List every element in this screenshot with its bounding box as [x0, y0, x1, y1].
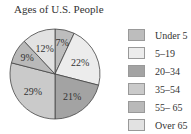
slice-label: 22% [71, 57, 89, 68]
slice-label: 12% [36, 43, 54, 54]
legend-swatch [128, 29, 145, 41]
legend-item-under-5: Under 5 [128, 26, 188, 44]
legend-item-55-65: 55– 65 [128, 98, 188, 116]
legend-item-over-65: Over 65 [128, 116, 188, 134]
legend-item-35-54: 35–54 [128, 80, 188, 98]
legend-item-5-19: 5–19 [128, 44, 188, 62]
slice-label: 9% [20, 52, 33, 63]
legend-swatch [128, 101, 145, 113]
legend: Under 5 5–19 20–34 35–54 55– 65 Over 65 [128, 26, 188, 134]
slice-label: 7% [55, 37, 68, 48]
slice-label: 21% [63, 91, 81, 102]
legend-swatch [128, 47, 145, 59]
pie-chart: 7%22%21%29%9%12% [0, 0, 120, 134]
legend-swatch [128, 119, 145, 131]
legend-swatch [128, 83, 145, 95]
legend-swatch [128, 65, 145, 77]
slice-label: 29% [24, 86, 42, 97]
legend-item-20-34: 20–34 [128, 62, 188, 80]
